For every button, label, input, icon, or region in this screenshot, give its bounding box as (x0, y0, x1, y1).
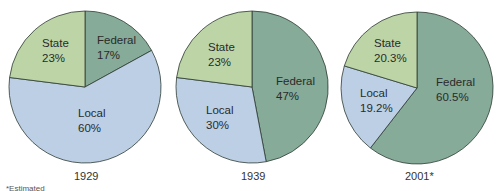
year-1939: 1939 (241, 170, 265, 182)
footnote: *Estimated (6, 184, 45, 191)
pct-local-2001: 19.2% (360, 102, 393, 114)
pie-2001: Federal 60.5% State 20.3% Local 19.2% 20… (341, 12, 493, 182)
label-local-2001: Local (360, 87, 388, 99)
pie-charts: Federal 17% State 23% Local 60% 1929 Fed… (0, 0, 500, 191)
pct-federal-1939: 47% (276, 90, 299, 102)
label-federal-2001: Federal (436, 76, 475, 88)
label-federal-1929: Federal (97, 34, 136, 46)
label-local-1939: Local (206, 104, 234, 116)
pie-1939: Federal 47% State 23% Local 30% 1939 (176, 11, 328, 182)
slice-state-1929 (10, 11, 85, 87)
label-local-1929: Local (78, 107, 106, 119)
pct-local-1929: 60% (78, 122, 101, 134)
year-2001: 2001* (405, 170, 434, 182)
pct-state-2001: 20.3% (374, 52, 407, 64)
pct-local-1939: 30% (206, 119, 229, 131)
pct-federal-2001: 60.5% (436, 91, 469, 103)
pct-state-1929: 23% (42, 52, 65, 64)
label-federal-1939: Federal (276, 75, 315, 87)
pct-federal-1929: 17% (97, 49, 120, 61)
label-state-1939: State (208, 41, 235, 53)
label-state-2001: State (374, 37, 401, 49)
pie-1929: Federal 17% State 23% Local 60% 1929 (9, 11, 161, 182)
label-state-1929: State (42, 37, 69, 49)
pct-state-1939: 23% (208, 56, 231, 68)
year-1929: 1929 (74, 170, 98, 182)
